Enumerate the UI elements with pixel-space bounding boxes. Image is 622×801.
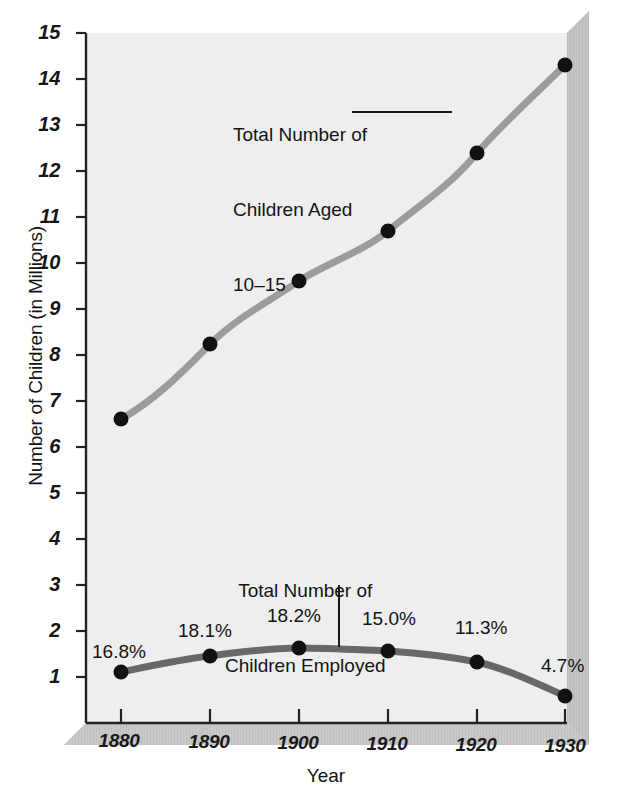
y-tick-label: 11: [16, 205, 60, 228]
y-tick-label: 1: [16, 665, 60, 688]
y-tick-label: 3: [16, 573, 60, 596]
point-label-percent: 4.7%: [541, 655, 584, 677]
y-axis-ticks: [76, 33, 86, 677]
y-tick-label: 4: [16, 527, 60, 550]
point-label-percent: 18.2%: [267, 605, 321, 627]
y-tick-label: 6: [16, 435, 60, 458]
point-label-percent: 15.0%: [362, 608, 416, 630]
chart-figure: Number of Children (in Millions) Year: [0, 0, 622, 801]
y-tick-label: 7: [16, 389, 60, 412]
point-label-percent: 16.8%: [92, 641, 146, 663]
y-tick-label: 15: [16, 21, 60, 44]
point-label-percent: 18.1%: [178, 620, 232, 642]
panel-right-bevel-texture: [567, 11, 589, 745]
annotation-line: Children Aged: [233, 197, 367, 222]
annotation-line: 10–15: [233, 272, 367, 297]
y-tick-label: 14: [16, 67, 60, 90]
x-tick-label: 1900: [263, 732, 333, 754]
point-label-percent: 11.3%: [455, 617, 507, 639]
annotation-total-children: Total Number of Children Aged 10–15: [233, 72, 367, 347]
y-tick-label: 10: [16, 251, 60, 274]
annotation-line: Total Number of: [225, 578, 386, 603]
x-tick-label: 1890: [174, 731, 244, 753]
annotation-line: Children Employed: [225, 653, 386, 678]
y-tick-label: 8: [16, 343, 60, 366]
x-tick-label: 1930: [530, 735, 600, 757]
y-tick-label: 9: [16, 297, 60, 320]
x-tick-label: 1920: [441, 734, 511, 756]
y-tick-label: 2: [16, 619, 60, 642]
y-tick-label: 12: [16, 159, 60, 182]
annotation-line: Total Number of: [233, 122, 367, 147]
x-tick-label: 1910: [352, 733, 422, 755]
y-tick-label: 13: [16, 113, 60, 136]
x-tick-label: 1880: [84, 730, 154, 752]
y-tick-label: 5: [16, 481, 60, 504]
